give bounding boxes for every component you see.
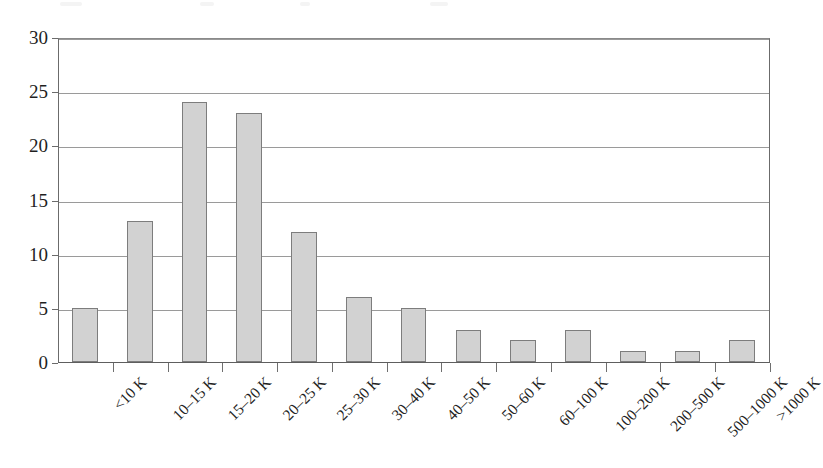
y-tick-label-5: 5 <box>39 299 49 318</box>
y-tick-mark-10 <box>52 255 58 256</box>
x-tick-label: 200–500 K <box>667 374 727 434</box>
x-tick-mark <box>441 363 442 372</box>
x-tick-label: 60–100 K <box>556 374 611 429</box>
bar <box>236 113 262 362</box>
x-tick-mark <box>660 363 661 372</box>
y-tick-label-10: 10 <box>29 245 48 264</box>
x-tick-label: 15–20 K <box>225 374 274 423</box>
scan-artifact <box>0 0 798 10</box>
bar <box>401 308 427 362</box>
bar <box>675 351 701 362</box>
bar <box>729 340 755 362</box>
bar <box>565 330 591 363</box>
bar <box>510 340 536 362</box>
plot-area <box>58 38 770 363</box>
x-tick-label: 10–15 K <box>170 374 219 423</box>
bar <box>346 297 372 362</box>
y-tick-label-0: 0 <box>39 353 49 372</box>
gridline-10 <box>59 256 769 257</box>
bar <box>182 102 208 362</box>
bar <box>127 221 153 362</box>
x-tick-mark <box>387 363 388 372</box>
x-tick-label: 20–25 K <box>279 374 328 423</box>
x-tick-label: 25–30 K <box>334 374 383 423</box>
x-tick-label: <10 K <box>111 374 150 413</box>
x-tick-mark <box>277 363 278 372</box>
y-tick-mark-20 <box>52 146 58 147</box>
y-tick-mark-5 <box>52 309 58 310</box>
gridline-30 <box>59 39 769 40</box>
x-tick-label: 100–200 K <box>613 374 673 434</box>
x-tick-mark <box>715 363 716 372</box>
y-tick-mark-15 <box>52 201 58 202</box>
gridline-15 <box>59 202 769 203</box>
x-tick-mark <box>332 363 333 372</box>
y-tick-mark-25 <box>52 92 58 93</box>
bar <box>620 351 646 362</box>
x-tick-mark <box>770 363 771 372</box>
y-tick-label-25: 25 <box>29 82 48 101</box>
x-tick-mark <box>606 363 607 372</box>
y-tick-label-15: 15 <box>29 191 48 210</box>
x-tick-mark <box>113 363 114 372</box>
gridline-20 <box>59 147 769 148</box>
x-tick-label: 50–60 K <box>499 374 548 423</box>
x-tick-mark <box>222 363 223 372</box>
y-tick-mark-30 <box>52 38 58 39</box>
x-tick-mark <box>168 363 169 372</box>
bar <box>456 330 482 363</box>
x-tick-label: 40–50 K <box>444 374 493 423</box>
y-tick-label-20: 20 <box>29 136 48 155</box>
x-tick-mark <box>496 363 497 372</box>
y-tick-mark-0 <box>52 363 58 364</box>
bar <box>291 232 317 362</box>
x-tick-label: 30–40 K <box>389 374 438 423</box>
bar <box>72 308 98 362</box>
y-tick-label-30: 30 <box>29 28 48 47</box>
gridline-25 <box>59 93 769 94</box>
x-tick-mark <box>551 363 552 372</box>
